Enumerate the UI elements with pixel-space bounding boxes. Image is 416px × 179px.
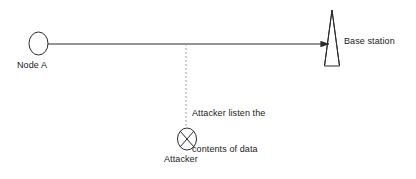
node-a-label: Node A — [17, 60, 47, 71]
base-station-mast-fill — [325, 10, 340, 66]
node-a-shape — [29, 32, 48, 55]
base-station-shape — [325, 10, 340, 66]
base-station-label: Base station — [344, 36, 395, 47]
attacker-note-line-2: contents of data — [192, 143, 265, 155]
attacker-note-annotation: Attacker listen the contents of data — [192, 83, 265, 179]
attacker-note-line-1: Attacker listen the — [192, 107, 265, 119]
attacker-label: Attacker — [164, 154, 198, 165]
diagram-canvas: Node A Base station Attacker listen the … — [0, 0, 416, 179]
